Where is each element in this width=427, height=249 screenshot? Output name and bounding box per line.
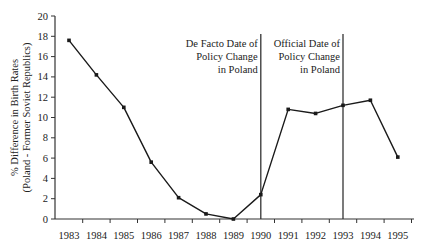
x-tick-label: 1990 xyxy=(250,230,271,241)
y-axis: 02468101214161820 xyxy=(38,11,56,225)
y-tick-label: 18 xyxy=(38,31,49,42)
x-tick-label: 1995 xyxy=(387,230,408,241)
y-tick-label: 10 xyxy=(38,112,49,123)
y-tick-label: 2 xyxy=(43,193,48,204)
y-tick-label: 14 xyxy=(38,71,49,82)
svg-text:% Difference in Birth Rates: % Difference in Birth Rates xyxy=(9,59,20,176)
data-point xyxy=(232,217,236,221)
line-chart: 02468101214161820 1983198419851986198719… xyxy=(0,0,427,249)
data-point xyxy=(259,193,263,197)
y-tick-label: 16 xyxy=(38,51,49,62)
data-point xyxy=(204,212,208,216)
y-tick-label: 20 xyxy=(38,11,49,22)
data-point xyxy=(286,108,290,112)
x-tick-label: 1987 xyxy=(168,230,189,241)
y-tick-label: 12 xyxy=(38,92,49,103)
data-point xyxy=(341,104,345,108)
data-point xyxy=(122,106,126,110)
annotation-text: Policy Change xyxy=(278,51,340,62)
x-tick-label: 1989 xyxy=(223,230,244,241)
data-point xyxy=(177,196,181,200)
y-tick-label: 4 xyxy=(43,173,49,184)
data-point xyxy=(396,155,400,159)
y-tick-label: 8 xyxy=(43,132,48,143)
policy-change-markers: De Facto Date ofPolicy Changein PolandOf… xyxy=(186,34,343,219)
x-tick-label: 1983 xyxy=(59,230,80,241)
x-tick-label: 1985 xyxy=(113,230,134,241)
y-tick-label: 6 xyxy=(43,153,48,164)
annotation-text: in Poland xyxy=(300,64,341,75)
annotation-text: De Facto Date of xyxy=(186,38,259,49)
annotation-text: in Poland xyxy=(218,64,259,75)
svg-text:(Poland - Former Soviet Republ: (Poland - Former Soviet Republics) xyxy=(21,42,33,192)
annotation-text: Official Date of xyxy=(274,38,341,49)
x-tick-label: 1988 xyxy=(196,230,217,241)
x-tick-label: 1994 xyxy=(360,230,382,241)
x-axis: 1983198419851986198719881989199019911992… xyxy=(55,219,414,241)
y-tick-label: 0 xyxy=(43,214,48,225)
annotation-text: Policy Change xyxy=(196,51,258,62)
x-tick-label: 1986 xyxy=(141,230,162,241)
data-point xyxy=(314,112,318,116)
data-point xyxy=(369,98,373,102)
data-point xyxy=(95,73,99,77)
x-tick-label: 1991 xyxy=(278,230,299,241)
data-point xyxy=(149,160,153,164)
data-point xyxy=(67,39,71,43)
x-tick-label: 1984 xyxy=(86,230,108,241)
x-tick-label: 1992 xyxy=(305,230,326,241)
y-axis-label: % Difference in Birth Rates(Poland - For… xyxy=(9,42,33,192)
x-tick-label: 1993 xyxy=(333,230,354,241)
